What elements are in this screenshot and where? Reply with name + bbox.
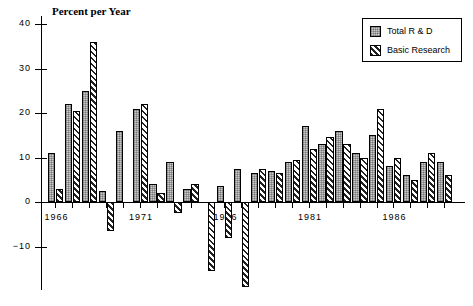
bar-basic-1974 (191, 184, 198, 202)
bar-basic-1981 (310, 149, 317, 202)
bar-basic-1969 (107, 202, 114, 231)
y-tick-label: 40 (5, 18, 31, 28)
x-tick-label: 1971 (129, 212, 153, 222)
x-tick-mark (123, 202, 124, 208)
y-tick-mark (35, 113, 47, 114)
bar-basic-1976 (225, 202, 232, 238)
x-tick-mark (326, 202, 327, 208)
rd-growth-bar-chart: Percent per Year 403020100−10 1966197119… (0, 0, 473, 306)
x-tick-mark (360, 202, 361, 208)
bar-basic-1983 (343, 144, 350, 202)
y-tick-label: 10 (5, 152, 31, 162)
bar-basic-1977 (242, 202, 249, 287)
bar-total-1983 (335, 131, 342, 202)
bar-total-1982 (318, 144, 325, 202)
x-tick-mark (377, 202, 378, 208)
bar-total-1967 (65, 104, 72, 202)
x-tick-mark (292, 202, 293, 208)
x-tick-mark (275, 202, 276, 208)
legend-label-basic-research: Basic Research (387, 45, 450, 55)
plot-area: Percent per Year 403020100−10 1966197119… (0, 0, 473, 306)
bar-total-1966 (48, 153, 55, 202)
y-tick-mark (35, 202, 47, 203)
bar-basic-1971 (141, 104, 148, 202)
bar-basic-1973 (174, 202, 181, 213)
chart-title: Percent per Year (52, 5, 131, 17)
y-tick-label: −10 (5, 241, 31, 251)
bar-basic-1980 (293, 160, 300, 202)
x-axis-line (41, 202, 465, 203)
x-tick-mark (410, 202, 411, 208)
bar-total-1969 (99, 191, 106, 202)
bar-total-1985 (369, 135, 376, 202)
bar-total-1968 (82, 91, 89, 202)
bar-total-1988 (420, 162, 427, 202)
bar-total-1987 (403, 175, 410, 202)
y-tick-mark (35, 247, 47, 248)
bar-basic-1988 (428, 153, 435, 202)
bar-total-1984 (352, 153, 359, 202)
bar-total-1977 (234, 169, 241, 202)
y-tick-label: 20 (5, 107, 31, 117)
y-tick-mark (35, 24, 47, 25)
legend-swatch-total-rd (370, 26, 381, 37)
bar-basic-1968 (90, 42, 97, 202)
bar-basic-1978 (259, 169, 266, 202)
y-tick-label: 30 (5, 63, 31, 73)
bar-basic-1985 (377, 109, 384, 202)
bar-total-1981 (302, 126, 309, 202)
x-tick-label: 1986 (382, 212, 406, 222)
x-tick-mark (393, 202, 394, 208)
x-tick-label: 1981 (298, 212, 322, 222)
bar-total-1971 (133, 109, 140, 202)
legend-item-total-rd: Total R & D (370, 25, 433, 37)
bar-total-1986 (386, 166, 393, 202)
bar-basic-1967 (73, 111, 80, 202)
y-axis-line (41, 16, 42, 290)
bar-total-1972 (149, 184, 156, 202)
x-tick-mark (444, 202, 445, 208)
x-tick-mark (140, 202, 141, 208)
bar-total-1989 (437, 162, 444, 202)
bar-total-1978 (251, 173, 258, 202)
bar-basic-1975 (208, 202, 215, 271)
x-tick-mark (55, 202, 56, 208)
bar-basic-1972 (157, 193, 164, 202)
y-tick-label: 0 (5, 196, 31, 206)
x-tick-mark (191, 202, 192, 208)
bar-basic-1982 (326, 137, 333, 202)
x-tick-mark (157, 202, 158, 208)
bar-total-1979 (268, 171, 275, 202)
legend-item-basic-research: Basic Research (370, 44, 450, 56)
bar-basic-1987 (411, 180, 418, 202)
chart-legend: Total R & D Basic Research (362, 18, 462, 62)
bar-total-1970 (116, 131, 123, 202)
legend-swatch-basic-research (370, 45, 381, 56)
x-tick-mark (309, 202, 310, 208)
bar-total-1974 (183, 189, 190, 202)
bar-total-1980 (285, 162, 292, 202)
bar-basic-1984 (360, 158, 367, 203)
bar-total-1973 (166, 162, 173, 202)
x-tick-mark (72, 202, 73, 208)
bar-basic-1986 (394, 158, 401, 203)
x-tick-label: 1966 (44, 212, 68, 222)
x-tick-mark (427, 202, 428, 208)
bar-basic-1989 (445, 175, 452, 202)
bar-basic-1966 (56, 189, 63, 202)
y-tick-mark (35, 158, 47, 159)
bar-basic-1979 (276, 173, 283, 202)
legend-label-total-rd: Total R & D (387, 26, 433, 36)
bar-total-1976 (217, 186, 224, 202)
x-tick-mark (343, 202, 344, 208)
y-tick-mark (35, 69, 47, 70)
x-tick-mark (89, 202, 90, 208)
x-tick-mark (258, 202, 259, 208)
